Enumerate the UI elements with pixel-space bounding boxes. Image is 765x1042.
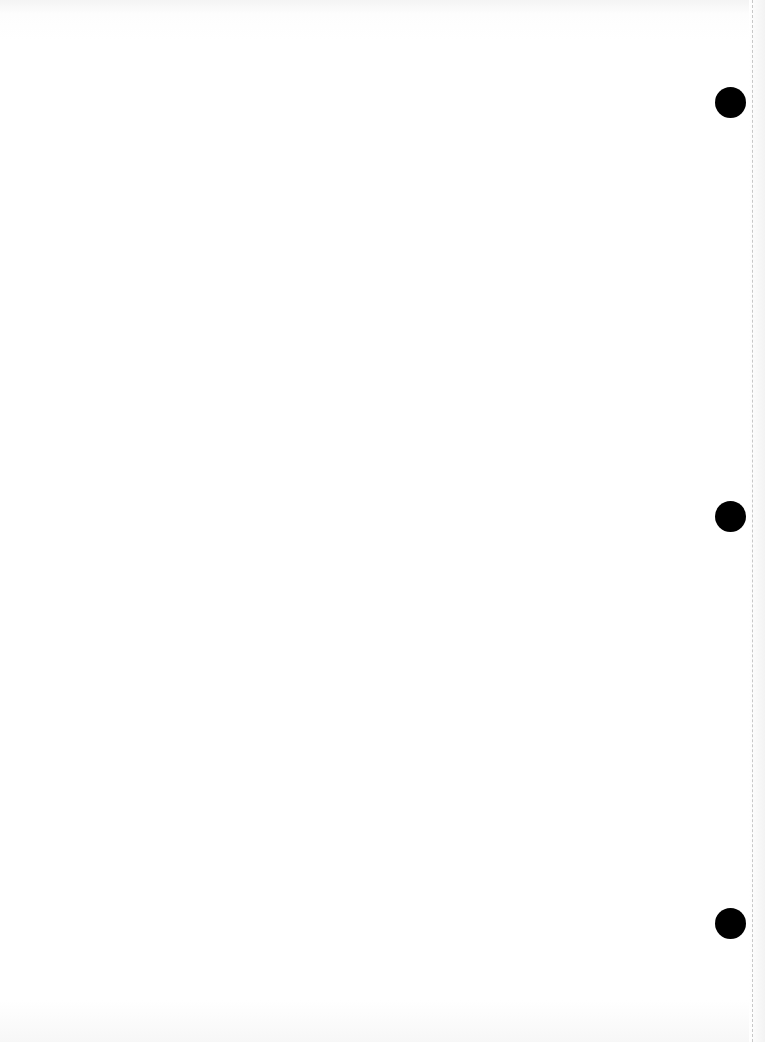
punch-hole-bottom xyxy=(715,908,746,939)
punch-hole-middle xyxy=(715,501,746,532)
blank-page xyxy=(0,0,765,1042)
perforation-line xyxy=(752,0,753,1042)
punch-hole-top xyxy=(715,87,746,118)
